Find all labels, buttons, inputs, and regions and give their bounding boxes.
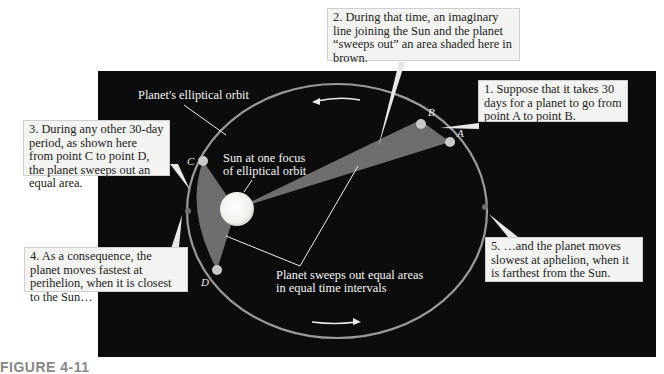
point-a (445, 137, 455, 147)
point-a-label: A (457, 127, 464, 139)
point-c-label: C (187, 155, 194, 167)
direction-arrow-bottom (312, 322, 356, 324)
perihelion-dot (185, 208, 191, 214)
figure-caption: FIGURE 4-11 (0, 359, 90, 374)
orbit-label: Planet's elliptical orbit (138, 89, 249, 102)
point-b-label: B (428, 106, 435, 118)
point-c (198, 156, 208, 166)
callout-1: 1. Suppose that it takes 30 days for a p… (478, 80, 628, 122)
sweeps-label-line2: in equal time intervals (276, 282, 386, 295)
point-d-label: D (201, 276, 209, 288)
callout-3: 3. During any other 30-day period, as sh… (23, 120, 170, 176)
callout-4: 4. As a consequence, the planet moves fa… (24, 247, 188, 292)
direction-arrow-top (317, 98, 360, 101)
aphelion-dot (482, 204, 488, 210)
sun (220, 192, 254, 226)
point-b (416, 119, 426, 129)
callout-5: 5. …and the planet moves slowest at aphe… (485, 237, 643, 282)
callout-2: 2. During that time, an imaginary line j… (327, 8, 520, 61)
sun-label-line2: of elliptical orbit (223, 165, 306, 178)
point-d (212, 265, 222, 275)
